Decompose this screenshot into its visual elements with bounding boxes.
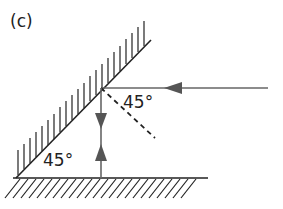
incidence-angle-label: 45° xyxy=(123,92,153,112)
reflected-ray xyxy=(95,88,107,178)
arrow-up-icon xyxy=(95,144,107,161)
ground-hatching xyxy=(5,179,196,198)
panel-label: (c) xyxy=(10,11,33,31)
ground-surface xyxy=(5,178,208,198)
reflection-diagram: (c) xyxy=(0,0,283,209)
arrow-down-icon xyxy=(95,113,107,129)
arrow-left-icon xyxy=(164,82,182,94)
mirror-angle-label: 45° xyxy=(43,150,73,170)
